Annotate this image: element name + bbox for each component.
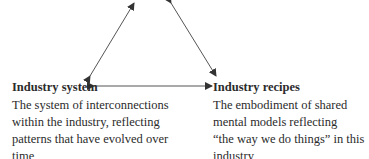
- arrow-left-diagonal: [90, 3, 134, 76]
- node-industry-system: Industry system The system of interconne…: [12, 80, 182, 159]
- description-line: industry: [213, 148, 369, 159]
- description-line: “the way we do things” in this: [213, 131, 369, 148]
- description-line: mental models reflecting: [213, 114, 369, 131]
- node-industry-recipes: Industry recipes The embodiment of share…: [213, 80, 369, 159]
- description-line: The embodiment of shared: [213, 97, 369, 114]
- description-line: time: [12, 148, 182, 159]
- node-title: Industry recipes: [213, 80, 369, 94]
- description-line: The system of interconnections: [12, 97, 182, 114]
- arrow-right-diagonal: [171, 3, 216, 76]
- description-line: within the industry, reflecting: [12, 114, 182, 131]
- node-description: The system of interconnections within th…: [12, 97, 182, 159]
- node-description: The embodiment of shared mental models r…: [213, 97, 369, 159]
- node-title: Industry system: [12, 80, 182, 94]
- description-line: patterns that have evolved over: [12, 131, 182, 148]
